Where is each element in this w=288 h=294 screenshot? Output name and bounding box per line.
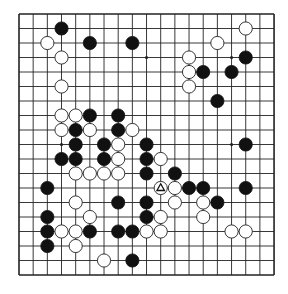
white-stone[interactable]	[112, 167, 125, 180]
black-stone[interactable]	[211, 94, 224, 107]
white-stone[interactable]	[168, 196, 181, 209]
white-stone[interactable]	[126, 123, 139, 136]
white-stone[interactable]	[154, 225, 167, 238]
white-stone[interactable]	[197, 196, 210, 209]
white-stone[interactable]	[55, 80, 68, 93]
white-stone[interactable]	[182, 51, 195, 64]
black-stone[interactable]	[97, 152, 110, 165]
white-stone[interactable]	[211, 36, 224, 49]
white-stone[interactable]	[225, 225, 238, 238]
hoshi-point	[60, 143, 63, 146]
black-stone[interactable]	[140, 138, 153, 151]
white-stone[interactable]	[69, 239, 82, 252]
black-stone[interactable]	[69, 123, 82, 136]
white-stone[interactable]	[154, 210, 167, 223]
black-stone[interactable]	[112, 196, 125, 209]
black-stone[interactable]	[41, 239, 54, 252]
black-stone[interactable]	[140, 167, 153, 180]
white-stone[interactable]	[239, 22, 252, 35]
black-stone[interactable]	[55, 152, 68, 165]
black-stone[interactable]	[112, 109, 125, 122]
white-stone[interactable]	[83, 123, 96, 136]
white-stone[interactable]	[154, 152, 167, 165]
white-stone[interactable]	[55, 123, 68, 136]
white-stone[interactable]	[112, 138, 125, 151]
black-stone[interactable]	[225, 65, 238, 78]
white-stone[interactable]	[182, 80, 195, 93]
white-stone[interactable]	[83, 167, 96, 180]
black-stone[interactable]	[97, 138, 110, 151]
white-stone[interactable]	[55, 51, 68, 64]
black-stone[interactable]	[112, 123, 125, 136]
black-stone[interactable]	[83, 36, 96, 49]
white-stone[interactable]	[97, 167, 110, 180]
black-stone[interactable]	[41, 210, 54, 223]
white-stone[interactable]	[140, 225, 153, 238]
black-stone[interactable]	[197, 181, 210, 194]
white-stone[interactable]	[69, 167, 82, 180]
black-stone[interactable]	[83, 109, 96, 122]
black-stone[interactable]	[140, 152, 153, 165]
white-stone[interactable]	[112, 152, 125, 165]
white-stone[interactable]	[69, 225, 82, 238]
black-stone[interactable]	[239, 138, 252, 151]
white-stone[interactable]	[239, 225, 252, 238]
white-stone[interactable]	[182, 65, 195, 78]
black-stone[interactable]	[168, 167, 181, 180]
black-stone[interactable]	[126, 36, 139, 49]
black-stone[interactable]	[211, 196, 224, 209]
white-stone[interactable]	[69, 109, 82, 122]
white-stone[interactable]	[197, 210, 210, 223]
black-stone[interactable]	[239, 181, 252, 194]
black-stone[interactable]	[41, 225, 54, 238]
white-stone[interactable]	[83, 210, 96, 223]
white-stone[interactable]	[55, 225, 68, 238]
black-stone[interactable]	[83, 225, 96, 238]
go-board[interactable]	[0, 0, 288, 294]
black-stone[interactable]	[69, 152, 82, 165]
hoshi-point	[145, 56, 148, 59]
black-stone[interactable]	[112, 225, 125, 238]
black-stone[interactable]	[41, 181, 54, 194]
white-stone[interactable]	[168, 181, 181, 194]
black-stone[interactable]	[69, 138, 82, 151]
black-stone[interactable]	[140, 196, 153, 209]
hoshi-point	[230, 143, 233, 146]
black-stone[interactable]	[239, 51, 252, 64]
black-stone[interactable]	[126, 254, 139, 267]
white-stone[interactable]	[97, 254, 110, 267]
black-stone[interactable]	[182, 181, 195, 194]
hoshi-point	[230, 56, 233, 59]
black-stone[interactable]	[140, 210, 153, 223]
white-stone[interactable]	[69, 196, 82, 209]
white-stone[interactable]	[55, 109, 68, 122]
white-stone[interactable]	[41, 36, 54, 49]
black-stone[interactable]	[197, 65, 210, 78]
black-stone[interactable]	[55, 22, 68, 35]
black-stone[interactable]	[126, 225, 139, 238]
